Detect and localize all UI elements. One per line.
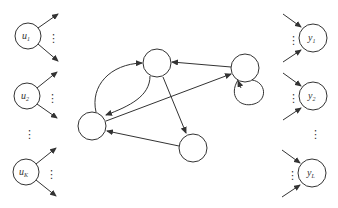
ellipsis-outputs: ⋮ — [310, 128, 321, 141]
ellipsis-u2: ⋮ — [47, 92, 58, 105]
ellipsis-u1: ⋮ — [48, 32, 59, 45]
hidden-node-left — [78, 112, 106, 140]
svg-text:y2: y2 — [307, 90, 315, 102]
hidden-node-right — [231, 54, 259, 82]
hidden-node-bottom — [179, 134, 207, 162]
network-diagram: u1 u2 uK y1 y2 yL ⋮ ⋮ ⋮ ⋮ ⋮ ⋮ ⋮ ⋮ — [0, 0, 338, 208]
svg-text:y1: y1 — [307, 32, 315, 44]
ellipsis-y2: ⋮ — [288, 92, 299, 105]
svg-text:yL: yL — [306, 167, 315, 179]
hidden-node-top — [143, 49, 171, 77]
ellipsis-inputs: ⋮ — [24, 128, 35, 141]
ellipsis-yL: ⋮ — [287, 169, 298, 182]
edge-left-to-right — [106, 74, 231, 121]
edge-right-to-top — [172, 62, 231, 67]
svg-text:uK: uK — [19, 166, 29, 178]
edge-top-to-bottom — [163, 77, 186, 133]
svg-text:u2: u2 — [21, 90, 29, 102]
edge-bottom-to-left — [107, 131, 179, 146]
ellipsis-uK: ⋮ — [46, 168, 57, 181]
svg-text:u1: u1 — [22, 30, 30, 42]
edge-top-to-left — [106, 76, 150, 115]
edge-left-to-top — [95, 63, 142, 112]
ellipsis-y1: ⋮ — [288, 34, 299, 47]
